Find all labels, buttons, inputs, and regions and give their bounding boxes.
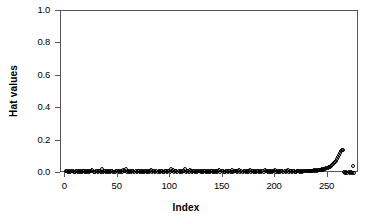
x-axis-title: Index xyxy=(0,202,372,213)
y-tick-label: 1.0 xyxy=(37,5,50,15)
x-tick-mark xyxy=(222,172,223,177)
plot-area xyxy=(60,10,358,172)
y-axis-title-wrap: Hat values xyxy=(4,10,22,172)
x-tick-label: 50 xyxy=(112,181,122,191)
data-point xyxy=(351,164,355,168)
data-points-layer xyxy=(61,11,357,171)
y-tick-label: 0.4 xyxy=(37,102,50,112)
y-tick-label: 0.6 xyxy=(37,70,50,80)
hat-values-index-plot: 0.00.20.40.60.81.0 050100150200250 Index… xyxy=(0,0,372,224)
x-tick-mark xyxy=(117,172,118,177)
y-axis-title: Hat values xyxy=(8,65,19,117)
x-tick-label: 200 xyxy=(266,181,281,191)
x-tick-label: 250 xyxy=(319,181,334,191)
x-tick-label: 100 xyxy=(161,181,176,191)
x-tick-mark xyxy=(327,172,328,177)
x-tick-mark xyxy=(274,172,275,177)
data-point xyxy=(341,148,345,152)
y-tick-label: 0.8 xyxy=(37,38,50,48)
y-tick-label: 0.2 xyxy=(37,135,50,145)
x-axis: 050100150200250 xyxy=(0,172,372,202)
x-tick-label: 0 xyxy=(62,181,67,191)
x-tick-mark xyxy=(64,172,65,177)
x-tick-mark xyxy=(169,172,170,177)
x-tick-label: 150 xyxy=(214,181,229,191)
